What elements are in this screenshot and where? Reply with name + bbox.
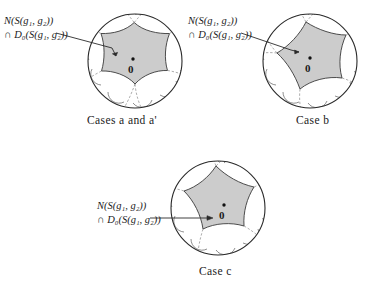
panel-a-tiling xyxy=(78,0,192,115)
panel-a-shaded-region xyxy=(101,23,170,85)
panel-c-diagram xyxy=(150,142,277,256)
panel-c-region-label: N(S(g₁, g₂)) ∩ D₀(S(g₁, g₂)) xyxy=(97,199,161,226)
panel-c-label-line1: N(S(g₁, g₂)) xyxy=(97,199,161,213)
panel-c-origin-dot xyxy=(222,203,225,206)
panel-b-origin-label: 0 xyxy=(305,62,311,74)
panel-c-tiling xyxy=(160,142,277,256)
hyperbolic-tiling-figure xyxy=(0,0,383,292)
figure-page: N(S(g₁, g₂)) ∩ D₀(S(g₁, g₂)) 0 Cases a a… xyxy=(0,0,383,292)
panel-c-caption: Case c xyxy=(199,265,232,277)
panel-b-label-line1: N(S(g₁, g₂)) xyxy=(188,14,252,28)
panel-b-origin-dot xyxy=(308,56,311,59)
panel-b-diagram xyxy=(241,0,368,117)
panel-a-label-line1: N(S(g₁, g₂)) xyxy=(4,14,68,28)
panel-c-origin-label: 0 xyxy=(219,209,225,221)
panel-a-caption: Cases a and a' xyxy=(87,114,157,126)
panel-b-shaded-region xyxy=(277,22,346,89)
panel-a-diagram xyxy=(56,0,192,115)
panel-b-caption: Case b xyxy=(296,114,329,126)
panel-c-label-line2: ∩ D₀(S(g₁, g₂)) xyxy=(97,213,161,227)
panel-b-label-line2: ∩ D₀(S(g₁, g₂)) xyxy=(188,28,252,42)
panel-a-origin-dot xyxy=(131,57,134,60)
panel-a-label-line2: ∩ D₀(S(g₁, g₂)) xyxy=(4,28,68,42)
panel-a-region-label: N(S(g₁, g₂)) ∩ D₀(S(g₁, g₂)) xyxy=(4,14,68,41)
panel-b-region-label: N(S(g₁, g₂)) ∩ D₀(S(g₁, g₂)) xyxy=(188,14,252,41)
panel-a-origin-label: 0 xyxy=(128,63,134,75)
